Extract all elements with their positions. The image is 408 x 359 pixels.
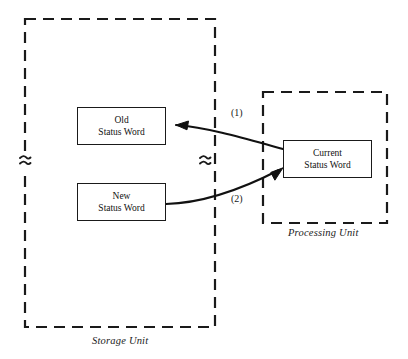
storage-unit-boundary: [25, 19, 215, 327]
node-current-status-word[interactable]: Current Status Word: [283, 140, 372, 178]
break-left-mask: [19, 152, 32, 169]
node-new-status-word[interactable]: New Status Word: [77, 183, 166, 221]
node-old-status-word-line2: Status Word: [98, 126, 144, 138]
processing-unit-caption: Processing Unit: [288, 227, 359, 238]
node-current-status-word-line1: Current: [313, 147, 342, 159]
status-word-diagram: Old Status Word New Status Word Current …: [0, 0, 408, 359]
flow-1-label: (1): [231, 107, 243, 118]
diagram-canvas: [0, 0, 408, 359]
node-current-status-word-line2: Status Word: [304, 159, 350, 171]
flow-2-label: (2): [231, 193, 243, 204]
node-old-status-word-line1: Old: [114, 114, 128, 126]
flow-1-arrow: [176, 121, 283, 149]
flow-2-arrow: [166, 168, 283, 204]
node-old-status-word[interactable]: Old Status Word: [77, 107, 166, 145]
storage-unit-caption: Storage Unit: [92, 335, 148, 346]
node-new-status-word-line1: New: [113, 190, 131, 202]
break-middle-mask: [199, 152, 212, 169]
node-new-status-word-line2: Status Word: [98, 202, 144, 214]
